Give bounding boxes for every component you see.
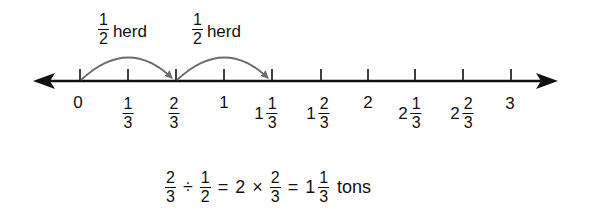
dividend-fraction: 2 3 [165,170,176,205]
tick-label-1: 1 [219,93,228,113]
jump-1-word: herd [113,22,147,42]
multiplier-integer: 2 [235,177,245,198]
tick-label-2: 2 [363,93,372,113]
jump-label-2: 1 2 herd [192,12,241,47]
result-fraction: 1 3 [318,170,329,205]
multiply-sign: × [252,177,263,198]
tick-label-2-2-3: 2 2 3 [450,96,473,131]
tick-label-1-2-3: 1 2 3 [306,96,329,131]
jump-arc-1 [81,57,172,80]
result-whole: 1 [305,177,315,198]
jump-2-denominator: 2 [192,29,203,47]
multiplicand-fraction: 2 3 [270,170,281,205]
jump-arc-2 [177,57,268,80]
division-equation: 2 3 ÷ 1 2 = 2 × 2 3 = 1 1 3 tons [165,170,371,205]
tick-label-3: 3 [505,94,514,114]
unit-label: tons [337,177,371,198]
tick-label-1-1-3: 1 1 3 [254,96,277,131]
jump-2-numerator: 1 [192,12,203,29]
jump-1-numerator: 1 [98,12,109,29]
tick-label-0: 0 [73,93,82,113]
jump-2-word: herd [207,22,241,42]
tick-label-2-1-3: 2 1 3 [398,96,421,131]
ticks [80,69,511,81]
tick-label-1-3: 1 3 [123,96,134,131]
equals-sign-2: = [288,177,299,198]
jump-1-denominator: 2 [98,29,109,47]
divisor-fraction: 1 2 [200,170,211,205]
divide-sign: ÷ [183,177,193,198]
tick-label-2-3: 2 3 [169,96,180,131]
jump-label-1: 1 2 herd [98,12,147,47]
equals-sign-1: = [218,177,229,198]
